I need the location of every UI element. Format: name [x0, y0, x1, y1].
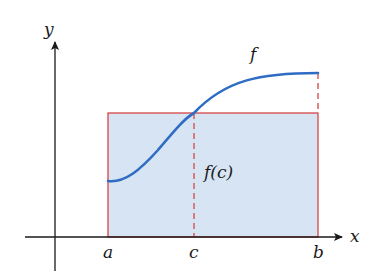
- mvt-integral-figure: y x a c b f f(c): [0, 0, 390, 271]
- c-label: c: [189, 242, 199, 262]
- x-axis-label: x: [350, 226, 360, 246]
- y-axis-label: y: [43, 19, 54, 39]
- a-label: a: [103, 242, 113, 262]
- diagram-canvas: y x a c b f f(c): [0, 0, 390, 271]
- function-label: f: [248, 44, 259, 64]
- b-label: b: [313, 242, 324, 262]
- fc-label: f(c): [202, 162, 233, 182]
